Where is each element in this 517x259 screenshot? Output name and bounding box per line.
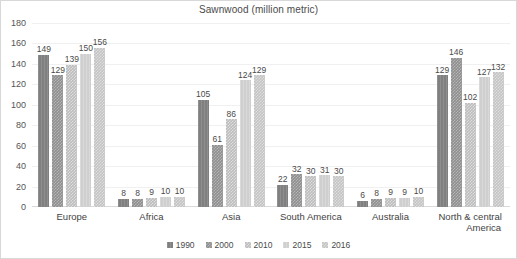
bar[interactable]: 129 — [254, 75, 265, 207]
bar[interactable]: 146 — [451, 58, 462, 207]
legend-item-2015[interactable]: 2015 — [283, 240, 311, 250]
bar[interactable]: 139 — [66, 65, 77, 207]
bar[interactable]: 30 — [333, 176, 344, 207]
bar-value-label: 8 — [121, 189, 126, 198]
bar[interactable]: 10 — [413, 197, 424, 207]
legend-label: 1990 — [176, 240, 195, 250]
legend-label: 2016 — [331, 240, 350, 250]
bar-value-label: 61 — [212, 135, 221, 144]
bar-value-label: 31 — [320, 166, 329, 175]
bar[interactable]: 6 — [357, 201, 368, 207]
bar-value-label: 156 — [93, 38, 107, 47]
bar-value-label: 10 — [175, 187, 184, 196]
y-axis-tick-60: 60 — [16, 141, 26, 150]
y-axis-tick-80: 80 — [16, 121, 26, 130]
bar-value-label: 10 — [161, 187, 170, 196]
x-axis-label-line: Europe — [57, 211, 88, 222]
x-axis-label-line: South America — [280, 211, 342, 222]
bar-value-label: 105 — [196, 90, 210, 99]
y-axis: 180160140120100806040200 — [1, 23, 30, 207]
y-axis-tick-20: 20 — [16, 182, 26, 191]
y-axis-tick-160: 160 — [11, 39, 26, 48]
legend-item-2000[interactable]: 2000 — [206, 240, 234, 250]
x-axis-label-line: America — [430, 222, 510, 233]
bar-group: 2232303130 — [271, 23, 351, 207]
y-axis-tick-100: 100 — [11, 100, 26, 109]
x-axis-label-line: Asia — [222, 211, 240, 222]
bar-value-label: 10 — [414, 187, 423, 196]
x-axis-label-4: Australia — [351, 210, 431, 238]
bar[interactable]: 156 — [94, 48, 105, 207]
legend-swatch-icon — [283, 242, 289, 248]
bar-group: 689910 — [351, 23, 431, 207]
bar[interactable]: 127 — [479, 77, 490, 207]
bar-value-label: 129 — [252, 66, 266, 75]
legend-item-2016[interactable]: 2016 — [322, 240, 350, 250]
x-axis-label-line: Australia — [372, 211, 409, 222]
bar-group: 1056186124129 — [191, 23, 271, 207]
x-axis-label-3: South America — [271, 210, 351, 238]
bar-value-label: 132 — [491, 63, 505, 72]
y-axis-tick-140: 140 — [11, 59, 26, 68]
bar[interactable]: 8 — [371, 199, 382, 207]
bar-value-label: 127 — [477, 68, 491, 77]
bar-value-label: 129 — [435, 66, 449, 75]
bar[interactable]: 32 — [291, 174, 302, 207]
y-axis-tick-180: 180 — [11, 19, 26, 28]
chart-title: Sawnwood (million metric) — [1, 4, 516, 15]
x-axis-label-line: North & central — [439, 211, 502, 222]
legend-label: 2010 — [254, 240, 273, 250]
legend-item-2010[interactable]: 2010 — [245, 240, 273, 250]
bar[interactable]: 8 — [118, 199, 129, 207]
bar-group: 129146102127132 — [430, 23, 510, 207]
bar[interactable]: 129 — [52, 75, 63, 207]
bar[interactable]: 129 — [437, 75, 448, 207]
bar[interactable]: 86 — [226, 119, 237, 207]
bar[interactable]: 10 — [160, 197, 171, 207]
bar[interactable]: 61 — [212, 145, 223, 207]
bar-value-label: 8 — [374, 189, 379, 198]
x-axis-label-line: Africa — [139, 211, 163, 222]
bar-value-label: 124 — [238, 71, 252, 80]
bar[interactable]: 102 — [465, 103, 476, 207]
bar[interactable]: 132 — [493, 72, 504, 207]
bar-value-label: 30 — [306, 167, 315, 176]
x-axis-labels: EuropeAfricaAsiaSouth AmericaAustraliaNo… — [32, 210, 510, 238]
legend-item-1990[interactable]: 1990 — [167, 240, 195, 250]
bar-value-label: 22 — [278, 175, 287, 184]
bar-value-label: 146 — [449, 48, 463, 57]
bar[interactable]: 105 — [198, 100, 209, 207]
bar-value-label: 8 — [135, 189, 140, 198]
bar[interactable]: 8 — [132, 199, 143, 207]
bar[interactable]: 9 — [385, 198, 396, 207]
bar-group: 8891010 — [112, 23, 192, 207]
x-axis-label-5: North & centralAmerica — [430, 210, 510, 238]
bar[interactable]: 22 — [277, 185, 288, 207]
legend-swatch-icon — [245, 242, 251, 248]
chart-container: Sawnwood (million metric) 18016014012010… — [0, 0, 517, 259]
bar-value-label: 9 — [402, 188, 407, 197]
bar[interactable]: 9 — [399, 198, 410, 207]
y-axis-tick-120: 120 — [11, 80, 26, 89]
bar[interactable]: 10 — [174, 197, 185, 207]
bar-value-label: 150 — [79, 44, 93, 53]
legend-label: 2000 — [215, 240, 234, 250]
bar[interactable]: 150 — [80, 54, 91, 207]
bar-value-label: 139 — [65, 55, 79, 64]
bar-value-label: 102 — [463, 93, 477, 102]
x-axis-label-2: Asia — [191, 210, 271, 238]
chart-legend: 19902000201020152016 — [1, 240, 516, 250]
bar-value-label: 86 — [226, 110, 235, 119]
legend-label: 2015 — [292, 240, 311, 250]
bar[interactable]: 31 — [319, 175, 330, 207]
y-axis-tick-0: 0 — [21, 203, 26, 212]
legend-swatch-icon — [322, 242, 328, 248]
bar[interactable]: 124 — [240, 80, 251, 207]
bar-groups: 1491291391501568891010105618612412922323… — [32, 23, 510, 207]
bar-value-label: 129 — [51, 66, 65, 75]
x-axis-label-1: Africa — [112, 210, 192, 238]
bar[interactable]: 149 — [38, 55, 49, 207]
bar[interactable]: 30 — [305, 176, 316, 207]
bar[interactable]: 9 — [146, 198, 157, 207]
bar-group: 149129139150156 — [32, 23, 112, 207]
